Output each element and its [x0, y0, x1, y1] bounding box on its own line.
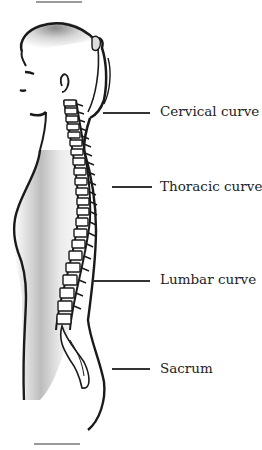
lumbar-leader-line — [93, 280, 150, 282]
sacrum-leader-line — [112, 368, 150, 370]
head-outline — [20, 22, 110, 150]
cervical-leader-line — [103, 112, 150, 114]
spine-figure-illustration — [0, 0, 262, 450]
thoracic-leader-line — [112, 186, 152, 188]
label-sacrum: Sacrum — [160, 362, 213, 376]
label-thoracic-curve: Thoracic curve — [160, 180, 262, 194]
label-cervical-curve: Cervical curve — [160, 105, 259, 119]
label-lumbar-curve: Lumbar curve — [160, 273, 256, 287]
